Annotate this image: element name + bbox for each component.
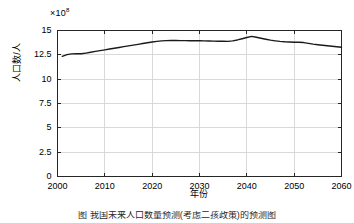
x-tick-label: 2000 [38,182,78,191]
gridlines [58,31,342,177]
y-tick-label: 10 [22,75,52,84]
x-tick-label: 2030 [180,182,220,191]
population-forecast-figure: ×108 人口数/人 年份 02.557.51012.515 200020102… [0,0,354,223]
y-tick-label: 15 [22,26,52,35]
y-tick-label: 5 [22,123,52,132]
y-tick-label: 0 [22,172,52,181]
figure-caption: 图 我国未来人口数量预测(考虑二孩政策)的预测图 [0,211,354,220]
population-series-line [62,36,341,56]
x-tick-label: 2050 [274,182,314,191]
x-tick-label: 2010 [85,182,125,191]
x-tick-label: 2020 [132,182,172,191]
x-tick-label: 2060 [322,182,354,191]
y-tick-label: 7.5 [22,99,52,108]
y-tick-label: 2.5 [22,148,52,157]
y-tick-label: 12.5 [22,50,52,59]
x-tick-label: 2040 [227,182,267,191]
